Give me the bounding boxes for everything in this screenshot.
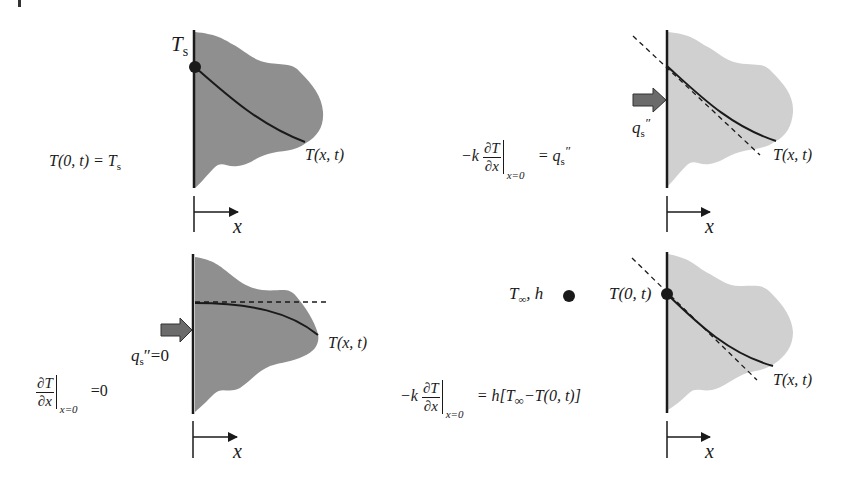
panel-adiabatic-surface bbox=[161, 254, 330, 458]
boundary-condition-equation: −k ∂T∂xx=0 = h[T∞−T(0, t)] bbox=[400, 380, 581, 414]
surface-temperature-point bbox=[661, 288, 673, 300]
profile-label: T(x, t) bbox=[328, 335, 367, 351]
fluid-conditions-label: T∞, h bbox=[509, 285, 543, 305]
solid-region bbox=[195, 257, 318, 412]
fluid-point bbox=[563, 290, 575, 302]
panel-constant-surface-heat-flux bbox=[633, 30, 793, 232]
panel-constant-surface-temperature bbox=[189, 30, 323, 232]
panel-surface-convection bbox=[563, 252, 793, 458]
heat-flux-arrow bbox=[161, 318, 192, 342]
surface-temperature-point bbox=[189, 61, 201, 73]
x-axis-label: x bbox=[705, 216, 714, 236]
solid-region bbox=[195, 32, 323, 188]
profile-label: T(x, t) bbox=[305, 147, 344, 163]
profile-label: T(x, t) bbox=[773, 372, 812, 388]
x-axis-label: x bbox=[705, 441, 714, 461]
surface-temperature-label: Ts bbox=[171, 34, 188, 59]
surface-temperature-label: T(0, t) bbox=[609, 285, 652, 302]
x-axis-label: x bbox=[233, 216, 242, 236]
heat-flux-label: qs″=0 bbox=[131, 347, 169, 367]
boundary-condition-equation: ∂T∂xx=0 =0 bbox=[36, 375, 108, 409]
x-axis-label: x bbox=[233, 441, 242, 461]
boundary-condition-equation: −k ∂T∂xx=0 = qs″ bbox=[461, 140, 570, 174]
boundary-condition-equation: T(0, t) = Ts bbox=[49, 153, 121, 172]
profile-label: T(x, t) bbox=[773, 147, 812, 163]
heat-flux-label: qs″ bbox=[632, 116, 650, 139]
heat-flux-arrow bbox=[633, 88, 666, 112]
